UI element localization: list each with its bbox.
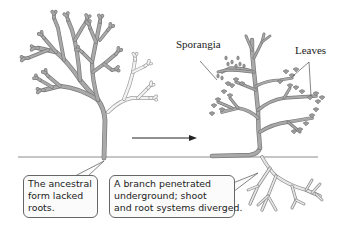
sporangia-leader (200, 61, 217, 80)
branch-tip (64, 14, 67, 16)
sporangium (225, 56, 228, 60)
branch-tip (39, 34, 42, 35)
main-branch (40, 80, 52, 87)
root (312, 184, 320, 193)
sporangium (243, 64, 246, 68)
main-branch (75, 22, 86, 40)
branch-tip (86, 22, 89, 24)
leaf (283, 70, 289, 75)
evolution-arrow (132, 135, 197, 141)
leaf (211, 104, 217, 109)
leaf (287, 84, 293, 89)
sporangium (221, 76, 224, 80)
branch-tip (43, 72, 46, 73)
main-branch (218, 102, 232, 108)
ancestral-faded-branches (108, 54, 156, 112)
branch-tip (22, 58, 24, 60)
derived-callout-line-3: and root systems diverged. (114, 202, 230, 214)
ancestral-plant (21, 12, 156, 158)
leaf (293, 86, 299, 91)
root (306, 180, 312, 190)
main-branch (260, 118, 312, 132)
leaf (319, 96, 325, 101)
rhizome (212, 148, 260, 156)
derived-callout-line-1: A branch penetrated (114, 178, 230, 190)
sporangia-label: Sporangia (176, 38, 221, 50)
root (268, 196, 276, 210)
derived-callout: A branch penetrated underground; shoot a… (109, 175, 235, 218)
leaves-leader-2 (309, 62, 311, 96)
leaves (209, 68, 325, 135)
branch-tip (99, 15, 101, 18)
leaf (307, 96, 313, 101)
ancestral-callout-line-2: form lacked (28, 190, 93, 202)
leaf (303, 122, 309, 127)
sporangium (235, 64, 238, 68)
root-system (248, 157, 322, 210)
leaf (277, 80, 283, 85)
branch-tip (52, 12, 54, 14)
leaf (299, 90, 305, 95)
leaf (227, 94, 233, 99)
derived-callout-line-2: underground; shoot (114, 190, 230, 202)
leaf (313, 108, 319, 113)
main-branch (222, 108, 258, 118)
leaf (291, 130, 297, 135)
branch-tip (86, 15, 87, 18)
main-branch (100, 30, 108, 40)
branch-tip (38, 90, 40, 92)
branch-tip (116, 67, 118, 69)
sporangium (239, 62, 242, 66)
leaf (221, 90, 227, 95)
derived-callout-pointer (233, 173, 258, 192)
ancestral-callout: The ancestral form lacked roots. (23, 175, 98, 218)
main-branch (82, 52, 92, 62)
ancestral-callout-line-3: roots. (28, 202, 93, 214)
leaves-label: Leaves (295, 44, 326, 56)
leaf (315, 100, 321, 105)
sporangium (227, 62, 230, 66)
leaf (209, 112, 215, 117)
branch-tip (32, 48, 34, 50)
main-branch (90, 28, 96, 42)
sporangium (237, 56, 240, 60)
sporangium (231, 60, 234, 64)
ancestral-callout-line-1: The ancestral (28, 178, 93, 190)
sporangium (217, 74, 220, 78)
ancestral-main-branches (21, 12, 121, 158)
ancestral-callout-pointer (75, 161, 104, 176)
branch-tip (148, 61, 149, 64)
